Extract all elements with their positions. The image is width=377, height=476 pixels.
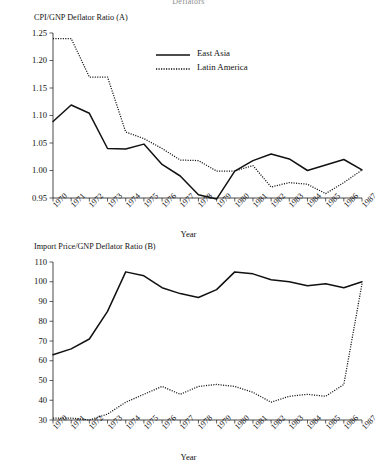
series-line-latin-america bbox=[53, 284, 362, 420]
y-tick-label: 1.15 bbox=[11, 84, 47, 93]
y-tick-label: 30 bbox=[11, 416, 47, 425]
y-tick-label: 1.00 bbox=[11, 166, 47, 175]
panel-b-plot bbox=[0, 240, 377, 476]
y-tick-label: 90 bbox=[11, 297, 47, 306]
y-tick-label: 1.25 bbox=[11, 29, 47, 38]
y-tick-label: 1.20 bbox=[11, 56, 47, 65]
legend-label-latin-america: Latin America bbox=[197, 62, 248, 72]
y-tick-label: 70 bbox=[11, 337, 47, 346]
y-tick-label: 40 bbox=[11, 396, 47, 405]
y-tick-label: 110 bbox=[11, 258, 47, 267]
figure-caption: Deflators bbox=[0, 0, 377, 6]
legend-label-east-asia: East Asia bbox=[197, 48, 230, 58]
panel-b-x-axis-title: Year bbox=[0, 452, 377, 462]
legend-swatch-solid-icon bbox=[156, 53, 190, 55]
y-tick-label: 100 bbox=[11, 277, 47, 286]
chart-panel-b: Import Price/GNP Deflator Ratio (B) 3040… bbox=[0, 240, 377, 476]
chart-panel-a: CPI/GNP Deflator Ratio (A) 0.951.001.051… bbox=[0, 10, 377, 242]
y-tick-label: 50 bbox=[11, 376, 47, 385]
y-tick-label: 1.10 bbox=[11, 111, 47, 120]
series-line-east-asia bbox=[53, 272, 362, 355]
y-tick-label: 1.05 bbox=[11, 139, 47, 148]
y-tick-label: 0.95 bbox=[11, 194, 47, 203]
series-line-east-asia bbox=[53, 105, 362, 199]
legend-swatch-dotted-icon bbox=[156, 67, 190, 69]
figure-root: Deflators CPI/GNP Deflator Ratio (A) 0.9… bbox=[0, 0, 377, 476]
panel-a-x-axis-title: Year bbox=[0, 229, 377, 239]
y-tick-label: 60 bbox=[11, 356, 47, 365]
y-tick-label: 80 bbox=[11, 317, 47, 326]
